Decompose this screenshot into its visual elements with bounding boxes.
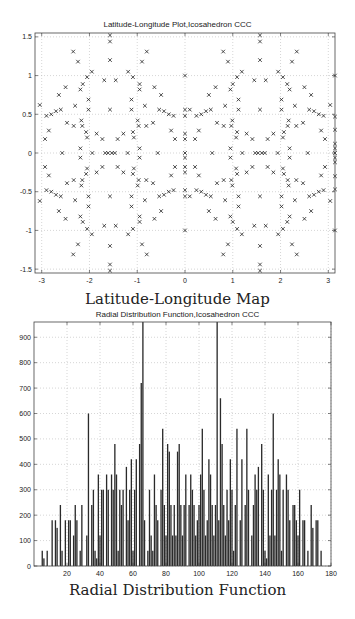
bar — [174, 505, 175, 566]
bar — [212, 505, 213, 566]
bar — [179, 444, 180, 566]
bar — [317, 520, 318, 566]
bar — [169, 452, 170, 566]
y-tick-label: 100 — [19, 537, 31, 544]
bar — [122, 490, 123, 566]
bar — [180, 505, 181, 566]
y-tick-label: 600 — [19, 410, 31, 417]
bar — [152, 551, 153, 566]
bar — [276, 490, 277, 566]
bar — [141, 383, 142, 566]
bar — [299, 490, 300, 566]
bar — [281, 551, 282, 566]
bar — [126, 467, 127, 566]
bar — [279, 475, 280, 567]
bar — [251, 536, 252, 567]
bar — [269, 536, 270, 567]
bar — [86, 536, 87, 567]
y-tick-label: 800 — [19, 359, 31, 366]
bar — [80, 551, 81, 566]
bar — [116, 475, 117, 567]
bar — [278, 459, 279, 566]
bar-series — [42, 322, 322, 566]
bar — [289, 520, 290, 566]
bar — [221, 444, 222, 566]
y-tick-label: 900 — [19, 334, 31, 341]
bar — [56, 528, 57, 566]
x-tick-label: 60 — [129, 570, 137, 577]
bar — [223, 505, 224, 566]
y-tick-label: 0 — [27, 563, 31, 570]
bar — [273, 414, 274, 567]
bar — [144, 520, 145, 566]
bar — [215, 505, 216, 566]
bar — [61, 551, 62, 566]
bar — [65, 520, 66, 566]
bar — [220, 398, 221, 566]
bar — [101, 490, 102, 566]
bar — [75, 505, 76, 566]
bar — [198, 505, 199, 566]
bar — [94, 551, 95, 566]
bar — [136, 459, 137, 566]
bar — [263, 490, 264, 566]
bar — [271, 490, 272, 566]
bar — [231, 490, 232, 566]
bar — [73, 536, 74, 567]
bar — [68, 520, 69, 566]
bar — [213, 536, 214, 567]
bar — [236, 429, 237, 566]
bar — [197, 520, 198, 566]
bar — [157, 520, 158, 566]
bar — [42, 551, 43, 566]
bar — [200, 475, 201, 567]
bar — [233, 551, 234, 566]
x-tick-label: 140 — [259, 570, 271, 577]
bar — [292, 505, 293, 566]
bar — [207, 520, 208, 566]
bar — [297, 536, 298, 567]
bar — [127, 520, 128, 566]
y-tick-label: 500 — [19, 435, 31, 442]
bar — [43, 558, 44, 566]
bar — [294, 505, 295, 566]
bar — [287, 490, 288, 566]
bar — [190, 475, 191, 567]
bar — [304, 520, 305, 566]
bar — [258, 467, 259, 566]
bar — [185, 475, 186, 567]
bar — [91, 505, 92, 566]
x-tick-label: 180 — [325, 570, 337, 577]
bar — [311, 505, 312, 566]
bar — [261, 444, 262, 566]
bar — [282, 490, 283, 566]
bar — [149, 490, 150, 566]
bar — [208, 459, 209, 566]
bar — [203, 490, 204, 566]
bar — [131, 459, 132, 566]
bar — [315, 520, 316, 566]
bar — [147, 551, 148, 566]
bar — [103, 490, 104, 566]
bar — [235, 505, 236, 566]
bar — [256, 490, 257, 566]
bar — [241, 459, 242, 566]
x-tick-label: 160 — [292, 570, 304, 577]
bar — [296, 520, 297, 566]
bar — [218, 520, 219, 566]
bar — [98, 475, 99, 567]
bar — [162, 429, 163, 566]
bar — [254, 475, 255, 567]
bar — [307, 551, 308, 566]
bar — [111, 475, 112, 567]
bar — [155, 505, 156, 566]
bar — [312, 528, 313, 566]
bar — [76, 520, 77, 566]
bar — [113, 490, 114, 566]
x-tick-label: 40 — [96, 570, 104, 577]
bar — [264, 551, 265, 566]
bar — [188, 505, 189, 566]
bar — [154, 475, 155, 567]
bar — [226, 490, 227, 566]
x-tick-label: 120 — [226, 570, 238, 577]
